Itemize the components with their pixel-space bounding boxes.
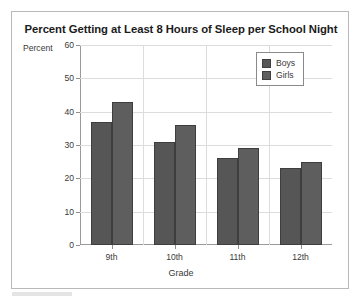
x-tick-label: 11th [229,252,245,262]
bar-girls-10th [175,125,196,245]
bar-boys-11th [217,158,238,245]
bar-boys-12th [280,168,301,245]
x-tick-label: 9th [106,252,118,262]
y-axis-caption: Percent [23,43,53,53]
y-tick-mark [76,245,80,246]
legend-swatch-girls [262,71,271,80]
y-tick-label: 60 [64,40,74,50]
y-tick-mark [76,112,80,113]
bar-girls-9th [112,102,133,245]
y-tick-label: 0 [69,240,74,250]
x-tick-mark [238,245,239,249]
bottom-edge-artifact [12,292,72,296]
y-tick-label: 30 [64,140,74,150]
gridline-vertical [206,45,207,245]
x-tick-mark [301,245,302,249]
y-tick-mark [76,145,80,146]
y-tick-label: 10 [64,207,74,217]
y-tick-label: 50 [64,73,74,83]
chart-figure: Percent Getting at Least 8 Hours of Slee… [11,11,349,289]
x-tick-label: 10th [166,252,183,262]
y-tick-mark [76,78,80,79]
bar-boys-10th [154,142,175,245]
y-tick-mark [76,178,80,179]
chart-legend: Boys Girls [256,52,304,86]
plot-area: 0102030405060 9th10th11th12th Boys Girls [80,45,332,245]
bar-boys-9th [91,122,112,245]
chart-title: Percent Getting at Least 8 Hours of Slee… [12,23,350,35]
legend-label-boys: Boys [276,58,295,68]
legend-label-girls: Girls [276,70,294,80]
bar-girls-11th [238,148,259,245]
x-tick-mark [112,245,113,249]
bar-girls-12th [301,162,322,245]
legend-item-boys: Boys [262,57,295,69]
y-tick-label: 20 [64,173,74,183]
y-tick-mark [76,45,80,46]
x-tick-mark [175,245,176,249]
x-tick-label: 12th [292,252,309,262]
gridline-vertical [143,45,144,245]
y-tick-label: 40 [64,107,74,117]
legend-item-girls: Girls [262,69,295,81]
legend-swatch-boys [262,59,271,68]
x-axis-title: Grade [12,268,350,278]
y-tick-mark [76,212,80,213]
